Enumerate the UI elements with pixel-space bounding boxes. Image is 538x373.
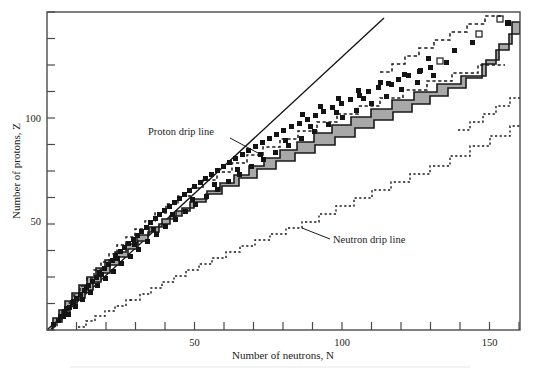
y-tick-label-100: 100 — [25, 113, 41, 124]
proton-drip-line-label: Proton drip line — [148, 126, 214, 137]
y-axis-title: Number of protons, Z — [10, 123, 22, 219]
y-tick-label-50: 50 — [31, 216, 42, 227]
neutron-drip-line-label: Neutron drip line — [333, 234, 406, 245]
caption-sliver — [70, 366, 470, 368]
x-axis-title: Number of neutrons, N — [232, 349, 334, 361]
x-tick-label-100: 100 — [334, 337, 350, 348]
figure-background — [0, 0, 538, 373]
x-tick-label-50: 50 — [189, 337, 200, 348]
nuclide-chart-figure: 50 100 50 100 150 Number of neutrons, N … — [0, 0, 538, 373]
x-tick-label-150: 150 — [482, 337, 498, 348]
